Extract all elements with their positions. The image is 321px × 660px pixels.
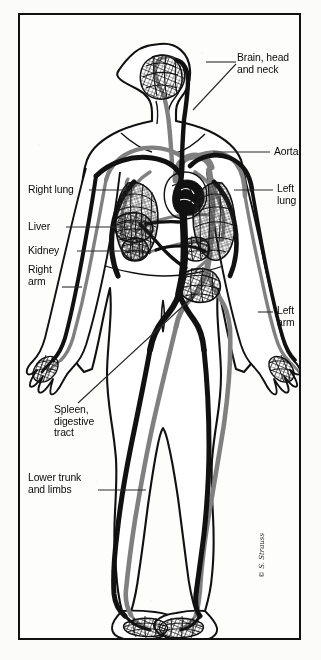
label-left-lung: Leftlung <box>277 183 296 206</box>
anatomy-illustration <box>0 0 321 660</box>
label-right-lung: Right lung <box>28 184 74 196</box>
spleen-digestive-capillary-bed <box>179 267 221 303</box>
left-kidney-capillary-bed <box>183 236 210 261</box>
circulatory-system-figure: Brain, headand neck Aorta Leftlung Lefta… <box>0 0 321 660</box>
label-spleen-digestive-tract: Spleen,digestivetract <box>54 404 94 439</box>
right-kidney-capillary-bed <box>122 237 149 261</box>
artist-credit: © S. Strauss <box>258 533 266 578</box>
label-kidney: Kidney <box>28 245 59 257</box>
label-left-arm: Leftarm <box>277 305 295 328</box>
leader-neck <box>193 64 236 110</box>
label-aorta: Aorta <box>274 146 298 158</box>
label-liver: Liver <box>28 221 50 233</box>
label-brain-head-neck: Brain, headand neck <box>237 52 289 75</box>
brain-capillary-bed <box>140 55 185 99</box>
label-lower-trunk-and-limbs: Lower trunkand limbs <box>28 472 81 495</box>
label-right-arm: Rightarm <box>28 264 52 287</box>
